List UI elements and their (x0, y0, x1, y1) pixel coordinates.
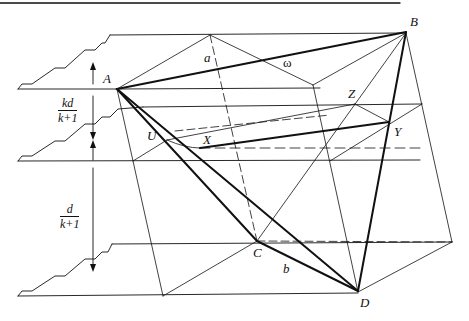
distance-label-kd-over-k1: kd k+1 (58, 97, 77, 124)
edge-BD (358, 32, 406, 291)
fraction-numerator: d (60, 203, 79, 217)
prism-edges (117, 33, 452, 296)
edge-XY (200, 122, 389, 148)
label-angle-omega: ω (283, 56, 292, 69)
fraction-denominator: k+1 (58, 111, 77, 124)
edge-AD (117, 89, 358, 291)
label-edge-a: a (204, 51, 211, 64)
label-point-X: X (203, 133, 211, 146)
label-point-A: A (103, 72, 111, 85)
edge-AB (117, 32, 406, 89)
distance-label-d-over-k1: d k+1 (60, 203, 79, 230)
label-point-Y: Y (394, 125, 401, 138)
label-point-U: U (147, 129, 156, 142)
hidden-edges (175, 35, 452, 242)
bottom-plane (18, 242, 452, 296)
edge-AC (117, 89, 257, 241)
label-edge-b: b (283, 262, 290, 275)
label-point-Z: Z (348, 87, 355, 100)
label-point-B: B (410, 15, 418, 28)
fraction-denominator: k+1 (60, 217, 79, 230)
label-point-D: D (360, 296, 369, 309)
label-point-C: C (253, 246, 262, 259)
top-plane (18, 33, 406, 89)
diagram-canvas: A B C D U X Y Z a ω b kd k+1 d k+1 (0, 0, 469, 321)
diagram-svg (0, 0, 469, 321)
middle-plane (18, 104, 422, 161)
fraction-numerator: kd (58, 97, 77, 111)
